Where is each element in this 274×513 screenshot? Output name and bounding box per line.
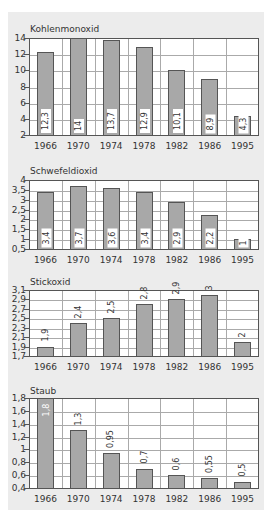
y-tick-mark <box>24 239 29 240</box>
value-label: 13,7 <box>107 109 117 133</box>
y-tick-mark <box>24 337 29 338</box>
value-label: 2,2 <box>206 228 216 247</box>
gridline-vertical <box>95 291 96 356</box>
x-tick-label: 1986 <box>194 255 226 265</box>
y-tick-mark <box>24 219 29 220</box>
x-tick-label: 1982 <box>161 255 193 265</box>
value-label: 3,7 <box>74 228 84 247</box>
gridline-vertical <box>160 39 161 135</box>
x-tick-label: 1970 <box>62 362 94 372</box>
value-label: 2,5 <box>106 298 116 315</box>
y-tick-mark <box>24 328 29 329</box>
y-tick-mark <box>24 119 29 120</box>
x-tick-label: 1974 <box>95 141 127 151</box>
gridline-horizontal <box>30 425 258 426</box>
x-tick-label: 1966 <box>29 141 61 151</box>
x-tick-label: 1995 <box>227 362 259 372</box>
value-label: 2,4 <box>73 303 83 320</box>
value-label: 12,3 <box>41 109 51 133</box>
chart-title: Stickoxid <box>30 277 70 287</box>
value-label: 2,9 <box>173 228 183 247</box>
y-tick-mark <box>24 210 29 211</box>
x-tick-label: 1995 <box>227 255 259 265</box>
bar-1970 <box>70 430 87 489</box>
value-label: 12,9 <box>140 109 150 133</box>
value-label: 3,6 <box>107 228 117 247</box>
x-tick-label: 1978 <box>128 494 160 504</box>
gridline-vertical <box>193 181 194 249</box>
value-label: 1,3 <box>73 410 83 427</box>
bar-1970 <box>70 323 87 357</box>
x-tick-label: 1966 <box>29 494 61 504</box>
y-tick-mark <box>24 190 29 191</box>
y-tick-mark <box>24 200 29 201</box>
x-tick-label: 1978 <box>128 362 160 372</box>
x-tick-label: 1970 <box>62 141 94 151</box>
y-tick-mark <box>24 411 29 412</box>
value-label: 8,9 <box>206 114 216 133</box>
chart-title: Staub <box>30 386 56 396</box>
y-tick-mark <box>24 38 29 39</box>
y-tick-mark <box>24 309 29 310</box>
value-label: 3,4 <box>140 228 150 247</box>
bar-1995 <box>234 482 251 489</box>
gridline-vertical <box>95 39 96 135</box>
gridline-vertical <box>128 291 129 356</box>
value-label: 4,3 <box>239 114 249 133</box>
gridline-vertical <box>62 39 63 135</box>
x-tick-label: 1982 <box>161 141 193 151</box>
value-label: 2,8 <box>139 284 149 301</box>
y-tick-mark <box>24 70 29 71</box>
x-tick-label: 1982 <box>161 494 193 504</box>
value-label: 0,95 <box>106 428 116 450</box>
value-label: 0,5 <box>238 462 248 479</box>
y-tick-mark <box>24 488 29 489</box>
x-tick-label: 1974 <box>95 362 127 372</box>
gridline-vertical <box>95 181 96 249</box>
gridline-vertical <box>226 39 227 135</box>
y-tick-mark <box>24 462 29 463</box>
bar-1978 <box>136 304 153 357</box>
gridline-vertical <box>226 291 227 356</box>
value-label: 10,1 <box>173 109 183 133</box>
x-tick-label: 1966 <box>29 362 61 372</box>
value-label: 0,6 <box>172 455 182 472</box>
gridline-vertical <box>226 399 227 488</box>
gridline-vertical <box>62 399 63 488</box>
y-tick-mark <box>24 318 29 319</box>
x-tick-label: 1970 <box>62 255 94 265</box>
y-tick-mark <box>24 299 29 300</box>
y-tick-mark <box>24 475 29 476</box>
value-label: 2,9 <box>172 279 182 296</box>
value-label: 3,4 <box>41 228 51 247</box>
bar-1982 <box>168 475 185 489</box>
x-tick-label: 1974 <box>95 494 127 504</box>
bar-1974 <box>103 453 120 489</box>
value-label: 0,7 <box>139 449 149 466</box>
gridline-vertical <box>95 399 96 488</box>
gridline-vertical <box>193 39 194 135</box>
gridline-vertical <box>160 399 161 488</box>
bar-1982 <box>168 299 185 357</box>
bar-1986 <box>201 295 218 357</box>
y-tick-mark <box>24 249 29 250</box>
x-tick-label: 1982 <box>161 362 193 372</box>
chart-title: Kohlenmonoxid <box>30 24 99 34</box>
x-tick-label: 1974 <box>95 255 127 265</box>
gridline-vertical <box>128 39 129 135</box>
gridline-vertical <box>160 181 161 249</box>
x-tick-label: 1986 <box>194 362 226 372</box>
y-tick-mark <box>24 87 29 88</box>
y-tick-mark <box>24 103 29 104</box>
gridline-vertical <box>160 291 161 356</box>
gridline-horizontal <box>30 438 258 439</box>
x-tick-label: 1978 <box>128 255 160 265</box>
x-tick-label: 1995 <box>227 141 259 151</box>
x-tick-label: 1966 <box>29 255 61 265</box>
gridline-vertical <box>62 181 63 249</box>
x-tick-label: 1986 <box>194 494 226 504</box>
y-tick-mark <box>24 180 29 181</box>
gridline-horizontal <box>30 412 258 413</box>
gridline-vertical <box>128 181 129 249</box>
gridline-vertical <box>193 399 194 488</box>
